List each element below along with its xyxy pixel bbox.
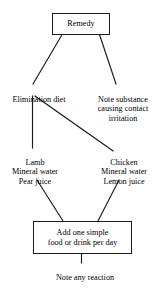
node-note-substance: Note substance causing contact irritatio… (88, 85, 158, 124)
node-note-reaction: Note any reaction (30, 263, 140, 282)
node-remedy-label: Remedy (67, 19, 94, 29)
node-elimination-diet-label: Elimination diet (13, 95, 66, 104)
node-lamb-group-label: Lamb Mineral water Pear juice (12, 158, 58, 186)
node-note-reaction-label: Note any reaction (56, 273, 114, 282)
node-lamb-group: Lamb Mineral water Pear juice (1, 148, 69, 187)
node-note-substance-label: Note substance causing contact irritatio… (98, 95, 149, 123)
edge-remedy-to-note-substance (99, 33, 116, 84)
node-chicken-group: Chicken Mineral water Lemon juice (88, 148, 160, 187)
edge-remedy-to-elimination-diet (33, 33, 63, 84)
node-chicken-group-label: Chicken Mineral water Lemon juice (101, 158, 147, 186)
flowchart-diagram: Remedy Elimination diet Note substance c… (0, 0, 162, 288)
node-add-food: Add one simple food or drink per day (33, 221, 132, 254)
node-elimination-diet: Elimination diet (0, 85, 78, 104)
node-add-food-label: Add one simple food or drink per day (48, 228, 118, 247)
node-remedy: Remedy (52, 13, 110, 35)
